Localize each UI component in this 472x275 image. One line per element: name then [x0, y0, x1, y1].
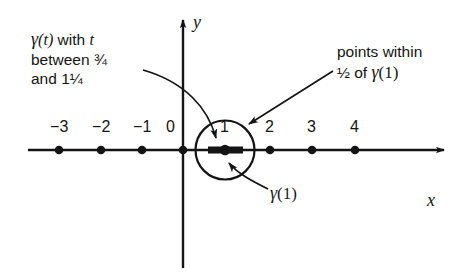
data-point-minus1 — [138, 146, 147, 155]
x-axis-label: x — [427, 190, 435, 212]
gamma-symbol: γ — [371, 62, 378, 82]
tick-label-minus-2: −2 — [92, 117, 111, 137]
data-point-4 — [351, 146, 360, 155]
annotation-gamma-t-range-line-3: and 1¼ — [31, 70, 107, 89]
figure-canvas: y x −3 −2 −1 0 1 2 3 4 γ(t) with t betwe… — [0, 0, 472, 275]
annotation-t-variable: t — [89, 31, 93, 48]
data-point-2 — [266, 146, 275, 155]
annotation-points-within-line-2: ½ of γ(1) — [337, 62, 422, 84]
annotation-gamma-t-range-line-1: γ(t) with t — [31, 29, 107, 51]
annotation-half-of: ½ of — [337, 64, 367, 81]
annotation-gamma-one: γ(1) — [270, 183, 297, 204]
gamma-arg-close: ) — [48, 31, 53, 48]
tick-label-1: 1 — [220, 117, 229, 137]
y-axis-label: y — [193, 12, 201, 34]
annotation-gamma-t-range-line-2: between ¾ — [31, 51, 107, 70]
data-point-3 — [308, 146, 317, 155]
tick-label-minus-3: −3 — [50, 117, 69, 137]
annotation-with-word: with — [58, 31, 86, 48]
annotation-gamma-t-range: γ(t) with t between ¾ and 1¼ — [31, 29, 107, 89]
tick-label-0: 0 — [166, 117, 175, 137]
annotation-points-within: points within ½ of γ(1) — [337, 43, 422, 84]
data-point-minus3 — [55, 146, 64, 155]
leader-line-points-within — [249, 71, 333, 124]
gamma-argument-one: (1) — [379, 63, 399, 82]
tick-label-3: 3 — [307, 117, 316, 137]
data-point-minus2 — [97, 146, 106, 155]
tick-label-2: 2 — [265, 117, 274, 137]
data-point-1 — [220, 145, 230, 155]
tick-label-minus-1: −1 — [133, 117, 152, 137]
data-point-0 — [179, 146, 188, 155]
tick-label-4: 4 — [350, 117, 359, 137]
annotation-points-within-line-1: points within — [337, 43, 422, 62]
gamma-argument-one: (1) — [277, 184, 297, 203]
